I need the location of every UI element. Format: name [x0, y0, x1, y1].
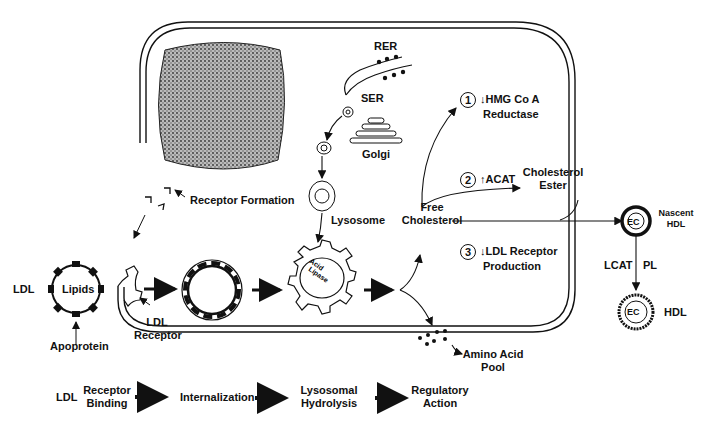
nascent-ec-label: EC	[627, 216, 640, 229]
nucleus	[159, 43, 285, 170]
hdl-label: HDL	[664, 306, 687, 319]
receptor-fragments	[145, 188, 170, 210]
receptor-formation-label: Receptor Formation	[190, 194, 250, 207]
coated-pit	[118, 266, 142, 306]
regulatory-action-2: 2↑ACAT	[460, 172, 515, 188]
lcat-label: LCAT	[604, 259, 633, 272]
ldl-particle	[48, 261, 104, 345]
vesicles	[309, 107, 353, 211]
amino-acid-pool-label: Amino Acid Pool	[462, 348, 524, 374]
ldl-label: LDL	[13, 283, 34, 296]
process-arrows	[144, 289, 392, 290]
flow-step-regulatory-action: Regulatory Action	[410, 384, 470, 410]
coated-vesicle	[182, 260, 242, 320]
flow-step-lysosomal-hydrolysis: Lysosomal Hydrolysis	[295, 384, 363, 410]
regulatory-action-1: 1↓HMG Co A Reductase	[460, 92, 539, 121]
flow-arrows	[135, 397, 405, 398]
flow-ldl-label: LDL	[56, 391, 77, 404]
golgi	[350, 118, 402, 143]
lysosome-label: Lysosome	[331, 214, 385, 227]
ldl-receptor-label: LDL Receptor	[134, 316, 180, 342]
flow-step-internalization: Internalization	[180, 391, 255, 404]
cholesterol-ester-label: Cholesterol Ester	[520, 166, 586, 192]
nascent-hdl-label: Nascent HDL	[656, 208, 696, 230]
pl-label: PL	[643, 259, 657, 272]
apoprotein-label: Apoprotein	[50, 340, 109, 353]
free-cholesterol-label: Free Cholesterol	[398, 201, 466, 227]
regulatory-action-3: 3↓LDL Receptor Production	[460, 244, 557, 273]
ser-label: SER	[361, 92, 384, 105]
lipids-label: Lipids	[62, 283, 94, 296]
flow-step-receptor-binding: Receptor Binding	[82, 384, 132, 410]
hdl-ec-label: EC	[627, 306, 640, 319]
golgi-label: Golgi	[362, 148, 390, 161]
rer-label: RER	[374, 40, 397, 53]
